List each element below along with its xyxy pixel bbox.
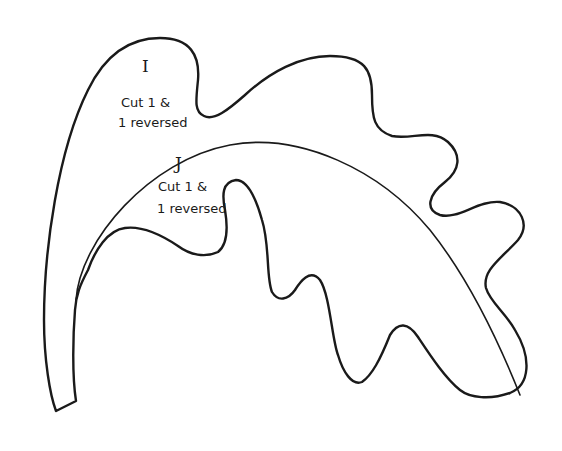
piece-j-boundary xyxy=(76,142,520,395)
piece-j-instruction-line1: Cut 1 & xyxy=(158,180,207,193)
leaf-pattern-drawing xyxy=(0,0,562,451)
piece-i-outline xyxy=(44,38,526,411)
piece-j-letter: J xyxy=(175,155,182,172)
piece-i-instruction-line2: 1 reversed xyxy=(118,116,188,129)
piece-j-instruction-line2: 1 reversed xyxy=(157,202,227,215)
piece-i-instruction-line1: Cut 1 & xyxy=(121,96,170,109)
piece-i-letter: I xyxy=(142,58,149,75)
